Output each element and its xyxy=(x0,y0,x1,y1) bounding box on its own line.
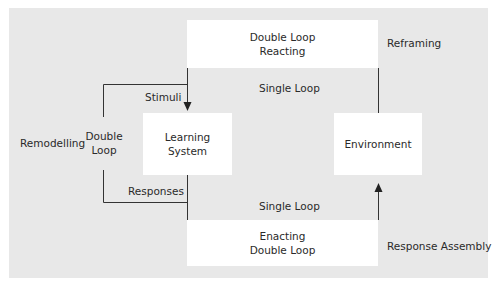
double-loop-left-label: Double Loop xyxy=(85,129,123,157)
response-assembly-label: Response Assembly xyxy=(387,239,491,253)
stimuli-label: Stimuli xyxy=(145,90,181,104)
single-loop-top-label: Single Loop xyxy=(259,81,320,95)
response-assembly-arrowhead-icon xyxy=(375,183,383,192)
remodelling-label: Remodelling xyxy=(20,136,85,150)
single-loop-bottom-label: Single Loop xyxy=(259,199,320,213)
double-loop-left-line1: Double xyxy=(85,129,123,143)
reframing-label: Reframing xyxy=(387,36,441,50)
double-loop-left-line2: Loop xyxy=(85,143,123,157)
stimuli-arrowhead-icon xyxy=(184,102,192,111)
responses-label: Responses xyxy=(128,184,184,198)
